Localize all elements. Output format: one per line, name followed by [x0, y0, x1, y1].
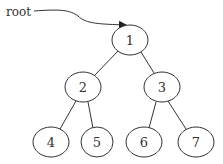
binary-tree-diagram: root 1 2 3 4 5 6 7: [0, 0, 223, 164]
tree-node-5: 5: [81, 127, 113, 157]
edge-1-3: [141, 52, 154, 73]
edge-3-6: [149, 102, 156, 128]
edge-3-7: [168, 101, 186, 129]
root-pointer-label: root: [6, 5, 31, 19]
node-label: 6: [140, 135, 148, 150]
node-label: 5: [93, 135, 101, 150]
edge-2-4: [60, 101, 76, 129]
tree-node-1: 1: [112, 25, 148, 55]
edge-2-5: [88, 102, 93, 128]
root-pointer-arrow: [34, 10, 126, 25]
node-label: 4: [47, 135, 55, 150]
tree-node-3: 3: [144, 72, 180, 102]
edge-1-2: [95, 51, 118, 75]
tree-node-4: 4: [33, 127, 69, 157]
tree-node-2: 2: [65, 72, 101, 102]
node-label: 3: [158, 80, 166, 95]
node-label: 7: [192, 135, 200, 150]
tree-node-6: 6: [126, 127, 162, 157]
node-label: 1: [126, 33, 134, 48]
tree-node-7: 7: [178, 127, 214, 157]
node-label: 2: [79, 80, 87, 95]
